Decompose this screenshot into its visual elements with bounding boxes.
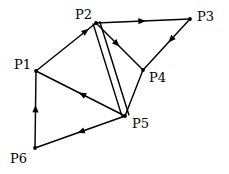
node-p4-vertex	[141, 68, 145, 72]
edge-p6-p1-arrowhead	[32, 105, 38, 113]
node-label-p4: P4	[149, 71, 166, 84]
edge-p2-p5-a	[100, 22, 129, 115]
edge-p4-p5	[125, 70, 143, 116]
node-label-p6: P6	[10, 152, 27, 165]
edge-p5-p6-arrowhead	[76, 128, 85, 136]
edge-p5-p1-arrowhead	[77, 90, 86, 99]
graph-figure: P1P2P3P4P5P6	[0, 0, 229, 174]
node-p5-vertex	[123, 114, 127, 118]
node-p3-vertex	[188, 17, 192, 21]
node-label-p2: P2	[75, 8, 92, 21]
node-p1-vertex	[34, 69, 38, 73]
node-label-p5: P5	[132, 117, 149, 130]
edges-layer	[35, 19, 190, 148]
node-p6-vertex	[33, 146, 37, 150]
nodes-layer	[33, 17, 192, 150]
edge-p2-p3-arrowhead	[138, 18, 146, 25]
edge-p2-p5-b	[93, 24, 122, 117]
node-label-p3: P3	[197, 10, 214, 23]
graph-canvas	[0, 0, 229, 174]
node-p2-vertex	[94, 21, 98, 25]
edge-p3-p4	[143, 19, 190, 70]
node-label-p1: P1	[14, 58, 31, 71]
